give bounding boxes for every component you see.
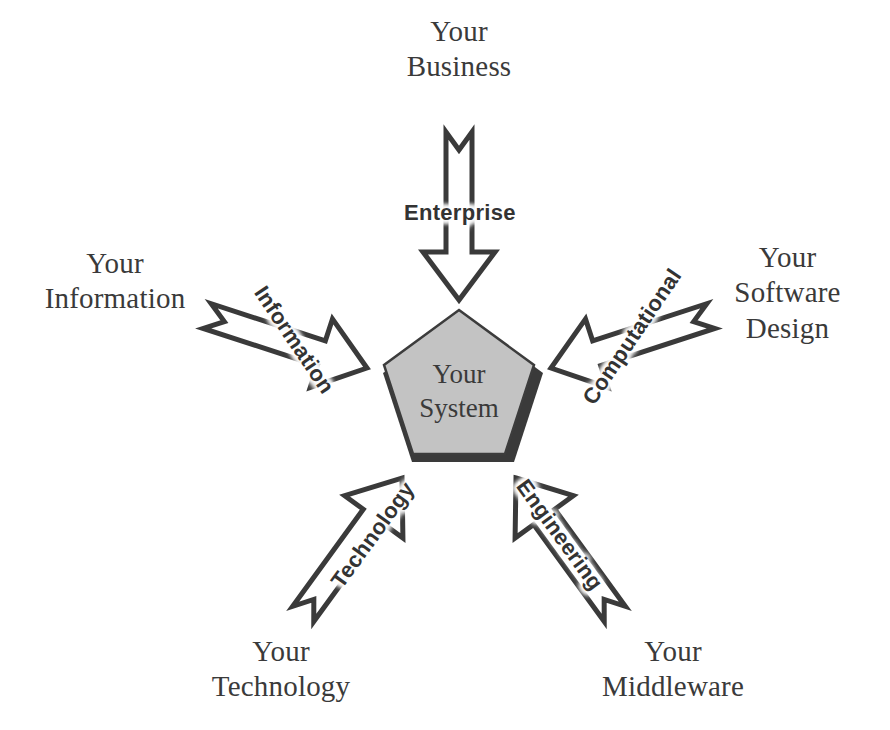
outer-label-your-middleware: Your Middleware <box>556 634 790 705</box>
outer-label-your-software-design: Your Software Design <box>690 240 885 346</box>
pentagon-label: Your System <box>384 358 534 426</box>
rmodp-viewpoints-diagram: Your System Enterprise Information Compu… <box>0 0 890 730</box>
viewpoint-label-enterprise: Enterprise <box>404 200 514 226</box>
outer-label-your-business: Your Business <box>349 14 569 85</box>
outer-label-your-technology: Your Technology <box>166 634 396 705</box>
outer-label-your-information: Your Information <box>7 246 223 317</box>
